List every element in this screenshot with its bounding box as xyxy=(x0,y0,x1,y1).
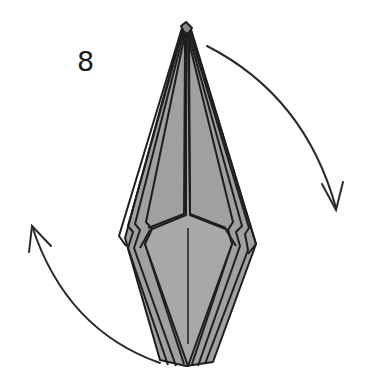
folded-model xyxy=(119,22,256,366)
origami-model-drawing xyxy=(0,0,368,389)
diagram-canvas: 8 xyxy=(0,0,368,389)
